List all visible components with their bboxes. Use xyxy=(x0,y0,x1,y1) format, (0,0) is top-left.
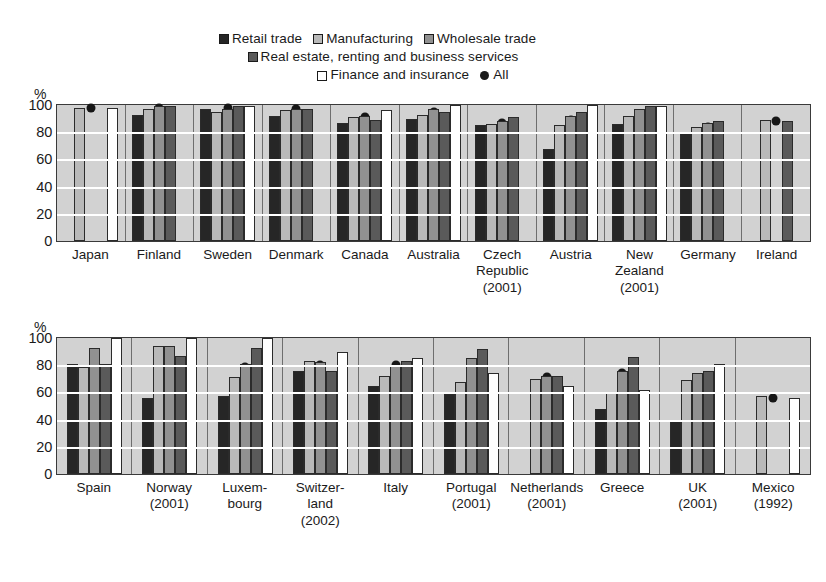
bar-group xyxy=(468,105,537,241)
x-tick-label: Japan xyxy=(56,245,125,296)
bar-manufacturing xyxy=(606,392,617,474)
gridline xyxy=(57,365,810,367)
x-tick-label-line: Finland xyxy=(126,247,193,263)
x-tick-label: Switzer-land(2002) xyxy=(283,478,359,529)
bar-wholesale xyxy=(359,116,370,241)
legend-label-all: All xyxy=(493,66,508,84)
bar-manufacturing xyxy=(379,376,390,474)
bar-stack xyxy=(745,338,800,474)
bar-finance xyxy=(412,358,423,474)
bar-stack xyxy=(368,338,423,474)
legend-item-all: All xyxy=(480,66,508,84)
bar-wholesale xyxy=(541,376,552,474)
x-tick-label-line: (2001) xyxy=(510,496,584,512)
bar-wholesale xyxy=(222,109,233,241)
x-tick-label: Greece xyxy=(585,478,661,529)
bar-group xyxy=(509,338,584,474)
gridline xyxy=(57,132,810,134)
legend-label-retail: Retail trade xyxy=(232,30,302,48)
bar-group xyxy=(434,338,509,474)
x-tick-label-line: Denmark xyxy=(263,247,330,263)
bar-manufacturing xyxy=(691,127,702,241)
x-tick-label-line: Czech xyxy=(469,247,536,263)
x-tick-label: Sweden xyxy=(193,245,262,296)
bar-retail xyxy=(337,123,348,241)
bar-real xyxy=(713,121,724,241)
bar-manufacturing xyxy=(486,124,497,241)
chart-legend: Retail tradeManufacturingWholesale trade… xyxy=(0,30,826,85)
bar-finance xyxy=(381,110,392,241)
bar-wholesale xyxy=(702,123,713,241)
bar-finance xyxy=(262,338,273,474)
legend-item-wholesale: Wholesale trade xyxy=(424,30,536,48)
y-tick-label: 100 xyxy=(28,97,57,113)
x-tick-label: Portugal(2001) xyxy=(434,478,510,529)
bar-finance xyxy=(186,338,197,474)
bar-group xyxy=(57,338,132,474)
bar-manufacturing xyxy=(211,112,222,241)
x-tick-label: Austria xyxy=(536,245,605,296)
bar-wholesale xyxy=(634,109,645,241)
bar-real xyxy=(326,371,337,474)
bar-stack xyxy=(269,105,324,241)
bar-real xyxy=(370,120,381,241)
bar-manufacturing xyxy=(304,361,315,474)
bar-stack xyxy=(132,105,187,241)
bar-group xyxy=(537,105,606,241)
bar-retail xyxy=(444,394,455,474)
bar-manufacturing xyxy=(348,117,359,241)
bar-finance xyxy=(244,106,255,241)
x-tick-label: Denmark xyxy=(262,245,331,296)
x-tick-label-line: (2001) xyxy=(133,496,207,512)
bar-finance xyxy=(337,352,348,474)
bar-finance xyxy=(111,338,122,474)
bar-wholesale xyxy=(291,109,302,241)
bar-real xyxy=(439,112,450,241)
bar-wholesale xyxy=(617,371,628,474)
x-tick-label-line: (2001) xyxy=(469,280,536,296)
bar-group xyxy=(331,105,400,241)
bar-real xyxy=(628,357,639,474)
bar-group xyxy=(400,105,469,241)
x-tick-label: CzechRepublic(2001) xyxy=(468,245,537,296)
bar-group xyxy=(57,105,126,241)
gridline xyxy=(57,420,810,422)
x-tick-label: Mexico(1992) xyxy=(736,478,812,529)
bar-manufacturing xyxy=(756,396,767,474)
x-tick-label-line: Canada xyxy=(332,247,399,263)
y-tick-label: 60 xyxy=(36,151,57,167)
x-tick-label: Germany xyxy=(674,245,743,296)
x-tick-label: Italy xyxy=(358,478,434,529)
bar-real xyxy=(233,106,244,241)
legend-label-manufacturing: Manufacturing xyxy=(326,30,413,48)
x-tick-label-line: Republic xyxy=(469,263,536,279)
finance-swatch-icon xyxy=(317,71,327,81)
bar-retail xyxy=(218,396,229,474)
x-tick-label-line: Netherlands xyxy=(510,480,584,496)
bar-finance xyxy=(107,108,118,241)
x-tick-label: Luxem-bourg xyxy=(207,478,283,529)
bar-retail xyxy=(475,125,486,241)
legend-label-real: Real estate, renting and business servic… xyxy=(261,48,519,66)
legend-item-retail: Retail trade xyxy=(219,30,302,48)
y-tick-label: 100 xyxy=(28,330,57,346)
bar-manufacturing xyxy=(74,108,85,241)
bar-group xyxy=(126,105,195,241)
bottom-chart-x-labels: SpainNorway(2001)Luxem-bourgSwitzer-land… xyxy=(56,478,811,529)
gridline xyxy=(57,159,810,161)
bar-retail xyxy=(368,386,379,474)
bar-stack xyxy=(444,338,499,474)
bar-retail xyxy=(200,109,211,241)
x-tick-label-line: (2001) xyxy=(661,496,735,512)
all-marker-dot xyxy=(772,117,781,126)
bar-group xyxy=(585,338,660,474)
x-tick-label-line: New xyxy=(606,247,673,263)
bar-group xyxy=(674,105,743,241)
bar-group xyxy=(194,105,263,241)
all-dot-icon xyxy=(480,71,489,80)
bar-real xyxy=(703,371,714,474)
bar-stack xyxy=(519,338,574,474)
bar-retail xyxy=(269,116,280,241)
gridline xyxy=(57,187,810,189)
bar-stack xyxy=(218,338,273,474)
